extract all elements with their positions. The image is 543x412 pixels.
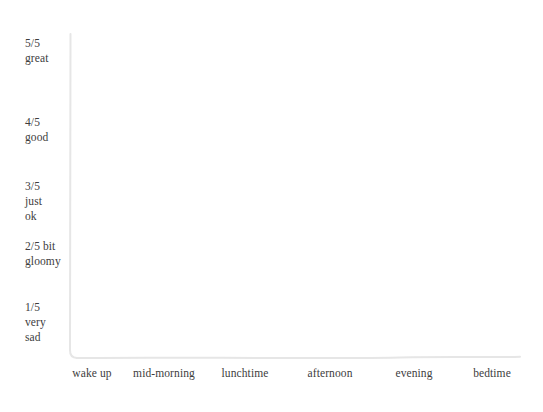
y-axis-tick-label-3: 3/5 just ok — [25, 179, 85, 224]
x-axis-tick-label-mid-morning: mid-morning — [133, 366, 195, 380]
y-axis-tick-label-5: 5/5 great — [25, 36, 85, 66]
x-axis-tick-label-lunchtime: lunchtime — [222, 366, 269, 380]
x-axis-tick-label-afternoon: afternoon — [308, 366, 353, 380]
x-axis-tick-label-wake-up: wake up — [72, 366, 111, 380]
x-axis-tick-label-evening: evening — [395, 366, 432, 380]
y-axis-tick-label-2: 2/5 bit gloomy — [25, 239, 91, 269]
mood-chart: 5/5 great 4/5 good 3/5 just ok 2/5 bit g… — [0, 0, 543, 412]
y-axis-tick-label-4: 4/5 good — [25, 115, 85, 145]
y-axis-tick-label-1: 1/5 very sad — [25, 300, 85, 345]
x-axis-tick-label-bedtime: bedtime — [473, 366, 511, 380]
plot-area[interactable] — [71, 34, 520, 358]
